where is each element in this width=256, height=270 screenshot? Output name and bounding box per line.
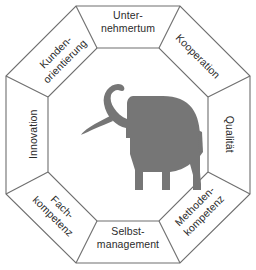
segment-line1: Innovation [27,110,39,159]
competence-octagon-diagram: Unter- nehmertum Kooperation Qualität Me… [0,0,256,270]
segment-line1: Unter- [113,9,143,21]
elephant-ear-path [134,96,163,120]
segment-line1: Selbst- [111,225,144,237]
segment-line1: Qualität [224,116,236,153]
segment-label-innovation: Innovation [27,89,40,179]
